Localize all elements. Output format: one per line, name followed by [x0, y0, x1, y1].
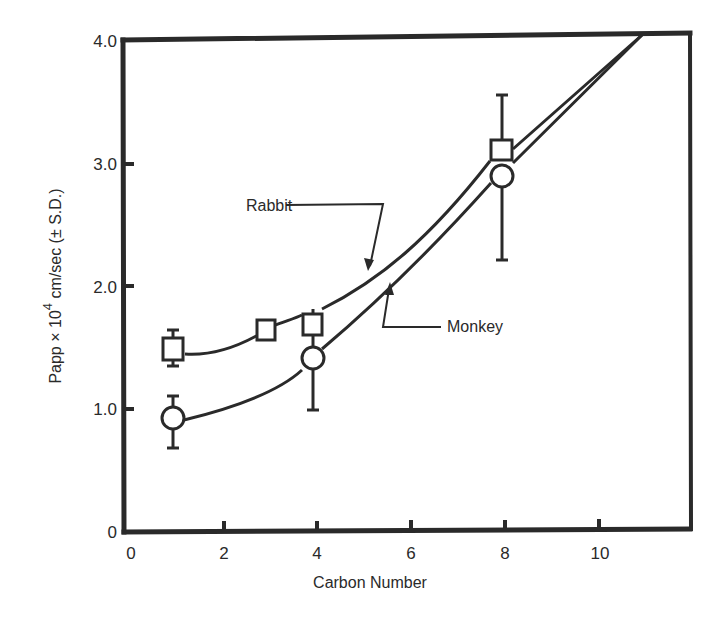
y-tick-label: 2.0: [93, 278, 117, 297]
rabbit-point: [257, 320, 275, 340]
x-tick-label: 0: [126, 544, 135, 563]
x-tick-labels: 0 2 4 6 8 10: [126, 544, 609, 563]
x-tick-label: 6: [406, 544, 415, 563]
monkey-curve: [184, 35, 642, 420]
monkey-point: [162, 407, 184, 429]
top-border: [123, 33, 690, 40]
rabbit-point: [303, 314, 322, 335]
y-axis: [123, 40, 124, 532]
x-axis-title: Carbon Number: [313, 574, 428, 591]
monkey-point: [302, 347, 324, 369]
y-tick-label: 4.0: [93, 32, 117, 51]
y-axis-title-suffix: cm/sec (± S.D.): [47, 188, 64, 303]
rabbit-leader-line: [286, 204, 383, 266]
fitted-curves: [184, 35, 642, 420]
x-tick-label: 8: [500, 544, 509, 563]
rabbit-label: Rabbit: [246, 197, 293, 214]
rabbit-point: [491, 140, 512, 160]
right-border: [690, 33, 691, 529]
rabbit-annotation: Rabbit: [246, 197, 383, 271]
y-tick-label: 0: [108, 523, 117, 542]
y-tick-label: 1.0: [93, 400, 117, 419]
y-axis-title: Papp × 104 cm/sec (± S.D.): [40, 188, 64, 383]
rabbit-curve: [185, 35, 642, 354]
monkey-annotation: Monkey: [383, 282, 503, 335]
monkey-point: [491, 165, 513, 187]
rabbit-point: [163, 338, 183, 360]
x-axis: [124, 529, 690, 532]
monkey-label: Monkey: [447, 318, 503, 335]
x-tick-label: 4: [312, 544, 321, 563]
y-axis-title-sup: 4: [40, 303, 55, 310]
rabbit-arrowhead-icon: [364, 258, 374, 271]
y-axis-title-prefix: Papp × 10: [47, 310, 64, 384]
y-tick-labels: 0 1.0 2.0 3.0 4.0: [93, 32, 117, 542]
x-tick-label: 2: [219, 544, 228, 563]
chart: 0 1.0 2.0 3.0 4.0 0 2 4 6 8 10 Carbon Nu…: [0, 0, 726, 618]
error-bars: [167, 95, 508, 448]
x-tick-label: 10: [591, 544, 610, 563]
plot-frame: [123, 33, 691, 532]
y-tick-label: 3.0: [93, 155, 117, 174]
